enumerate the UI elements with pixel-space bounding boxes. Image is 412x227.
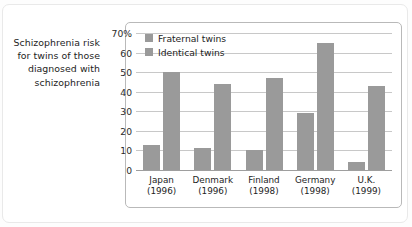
x-label-year: (1998) xyxy=(290,186,341,197)
x-label-year: (1996) xyxy=(136,186,187,197)
x-label-year: (1999) xyxy=(341,186,392,197)
y-tick-label-60: 60 xyxy=(98,47,132,58)
bar-denmark-identical xyxy=(214,84,231,170)
legend-item-identical: Identical twins xyxy=(145,45,275,59)
axis-baseline xyxy=(136,170,392,171)
x-label-country: Denmark xyxy=(193,175,233,185)
x-label-country: Finland xyxy=(248,175,279,185)
legend-swatch-identical xyxy=(145,48,153,56)
legend-label-fraternal: Fraternal twins xyxy=(158,33,226,44)
legend-label-identical: Identical twins xyxy=(158,47,225,58)
x-label-country: U.K. xyxy=(357,175,375,185)
x-label-country: Japan xyxy=(149,175,174,185)
x-tick-label-japan: Japan(1996) xyxy=(136,175,187,198)
x-tick-label-finland: Finland(1998) xyxy=(238,175,289,198)
x-label-country: Germany xyxy=(295,175,335,185)
y-tick-label-20: 20 xyxy=(98,125,132,136)
bar-finland-identical xyxy=(266,78,283,170)
bar-uk-identical xyxy=(368,86,385,170)
y-tick-label-30: 30 xyxy=(98,106,132,117)
bar-finland-fraternal xyxy=(246,150,263,170)
x-label-year: (1996) xyxy=(187,186,238,197)
bar-germany-identical xyxy=(317,43,334,170)
legend-item-fraternal: Fraternal twins xyxy=(145,31,275,45)
y-tick-label-0: 0 xyxy=(98,165,132,176)
y-tick-label-40: 40 xyxy=(98,86,132,97)
y-tick-label-10: 10 xyxy=(98,145,132,156)
x-tick-label-uk: U.K.(1999) xyxy=(341,175,392,198)
y-axis: 010203040506070% xyxy=(96,33,132,170)
bar-uk-fraternal xyxy=(348,162,365,170)
bar-denmark-fraternal xyxy=(194,148,211,170)
bar-japan-fraternal xyxy=(143,145,160,170)
legend: Fraternal twins Identical twins xyxy=(145,31,275,59)
legend-swatch-fraternal xyxy=(145,34,153,42)
bar-germany-fraternal xyxy=(297,113,314,170)
x-axis: Japan(1996)Denmark(1996)Finland(1998)Ger… xyxy=(136,175,392,205)
bar-japan-identical xyxy=(163,72,180,170)
y-tick-label-50: 50 xyxy=(98,67,132,78)
x-tick-label-germany: Germany(1998) xyxy=(290,175,341,198)
y-tick-label-70: 70% xyxy=(98,28,132,39)
chart-caption: Schizophrenia risk for twins of those di… xyxy=(4,36,100,89)
x-tick-label-denmark: Denmark(1996) xyxy=(187,175,238,198)
figure: Schizophrenia risk for twins of those di… xyxy=(0,0,412,227)
x-label-year: (1998) xyxy=(238,186,289,197)
